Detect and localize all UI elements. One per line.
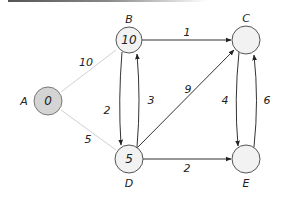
node-e-label: E bbox=[243, 177, 250, 190]
node-c bbox=[232, 26, 260, 54]
edge-b-d bbox=[120, 52, 122, 145]
graph-diagram: 0 10 5 A B C D E 10 5 1 2 3 9 2 4 6 bbox=[0, 0, 286, 203]
node-c-label: C bbox=[242, 12, 250, 25]
edge-e-c bbox=[254, 55, 257, 147]
weight-d-e: 2 bbox=[184, 162, 191, 175]
edge-c-e bbox=[236, 52, 239, 146]
weight-b-d: 2 bbox=[104, 104, 111, 117]
weight-a-b: 10 bbox=[79, 56, 93, 69]
weight-b-c: 1 bbox=[184, 26, 191, 39]
node-e bbox=[232, 145, 260, 173]
node-b-label: B bbox=[125, 13, 133, 26]
node-a-value: 0 bbox=[44, 94, 52, 108]
weight-c-e: 4 bbox=[222, 94, 229, 107]
weight-d-c: 9 bbox=[185, 83, 192, 96]
node-d-value: 5 bbox=[125, 152, 133, 166]
edge-d-b bbox=[137, 54, 139, 147]
weight-a-d: 5 bbox=[85, 133, 92, 146]
node-a-label: A bbox=[19, 95, 28, 108]
weight-e-c: 6 bbox=[264, 94, 271, 107]
weight-d-b: 3 bbox=[148, 94, 155, 107]
node-b-value: 10 bbox=[121, 33, 137, 47]
node-d-label: D bbox=[125, 177, 133, 190]
